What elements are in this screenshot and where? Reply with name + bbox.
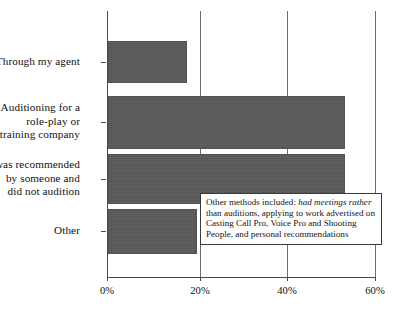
category-label-line: role-play or	[0, 115, 80, 129]
cat-dash-2	[101, 179, 106, 180]
cat-dash-0	[101, 62, 106, 63]
x-tick-label-0: 0%	[84, 284, 130, 297]
category-label-line: I was recommended	[0, 158, 80, 172]
tick-mark-0	[107, 277, 108, 281]
tick-mark-60	[375, 277, 376, 281]
bar-other	[108, 209, 197, 254]
x-tick-label-20: 20%	[177, 284, 223, 297]
bar-chart: Through my agent Auditioning for a role-…	[0, 0, 394, 313]
annotation-line-0: Other methods included: had meetings rat…	[206, 197, 377, 208]
cat-dash-3	[101, 231, 106, 232]
category-label-through-my-agent: Through my agent	[0, 55, 80, 69]
bar-through-my-agent	[108, 41, 187, 83]
category-label-auditioning-role-play: Auditioning for a role-play or training …	[0, 101, 80, 142]
category-label-line: training company	[0, 128, 80, 142]
bar-auditioning-role-play	[108, 96, 345, 149]
annotation-text-plain: Other methods included:	[206, 197, 296, 207]
x-tick-label-40: 40%	[264, 284, 310, 297]
annotation-line-1: than auditions, applying to work adverti…	[206, 208, 377, 219]
annotation-box: Other methods included: had meetings rat…	[200, 193, 382, 245]
category-label-recommended-no-audition: I was recommended by someone and did not…	[0, 158, 80, 199]
category-label-line: Auditioning for a	[0, 101, 80, 115]
category-label-other: Other	[0, 224, 80, 238]
annotation-text-italic: had meetings rather	[296, 197, 372, 207]
x-tick-label-60: 60%	[352, 284, 394, 297]
cat-dash-1	[101, 122, 106, 123]
annotation-line-3: People, and personal recommendations	[206, 229, 377, 240]
category-label-line: did not audition	[0, 185, 80, 199]
annotation-line-2: Casting Call Pro, Voice Pro and Shooting	[206, 218, 377, 229]
category-label-line: by someone and	[0, 172, 80, 186]
x-axis-line	[107, 277, 376, 278]
category-label-line: Other	[0, 224, 80, 238]
category-label-line: Through my agent	[0, 55, 80, 69]
tick-mark-20	[200, 277, 201, 281]
tick-mark-40	[287, 277, 288, 281]
